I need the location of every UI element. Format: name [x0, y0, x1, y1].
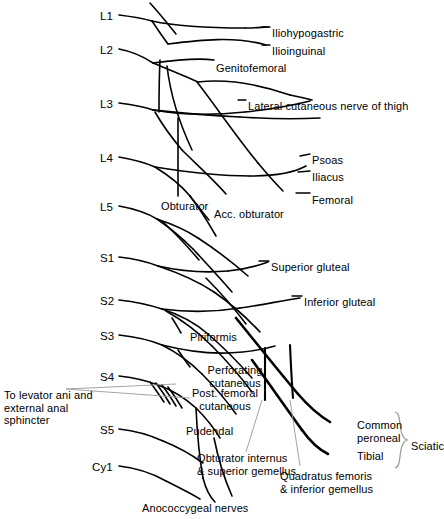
lumbosacral-plexus-diagram: L1 L2 L3 L4 L5 S1 S2 S3 S4 S5 Cy1 Iliohy…: [0, 0, 444, 519]
nerve-label-iliohypogastric: Iliohypogastric: [272, 27, 344, 40]
nerve-label-quadratus-femoris-inferior-gemellus: Quadratus femoris& inferior gemellus: [280, 470, 412, 495]
nerve-label-perforating-cutaneous: Perforatingcutaneous: [195, 364, 275, 389]
nerve-label-ilioinguinal: Ilioinguinal: [272, 45, 325, 58]
nerve-label-pudendal: Pudendal: [186, 425, 233, 438]
nerve-label-obturator: Obturator: [161, 200, 208, 213]
nerve-label-anococcygeal-nerves: Anococcygeal nerves: [142, 502, 248, 515]
root-label-l1: L1: [100, 10, 113, 23]
nerve-label-tibial: Tibial: [357, 450, 383, 463]
root-label-l3: L3: [100, 98, 113, 111]
nerve-label-psoas: Psoas: [312, 154, 343, 167]
nerve-label-to-levator-ani-and-external-anal-sphincter: To levator ani andexternal analsphincter: [4, 389, 114, 427]
nerve-label-acc-obturator: Acc. obturator: [214, 208, 284, 221]
nerve-label-piriformis: Piriformis: [190, 331, 237, 344]
nerve-label-common-peroneal: Commonperoneal: [357, 419, 417, 444]
root-label-s2: S2: [100, 295, 114, 308]
root-label-s1: S1: [100, 252, 114, 265]
nerve-label-sciatic: Sciatic: [411, 440, 444, 453]
nerve-label-superior-gluteal: Superior gluteal: [271, 261, 350, 274]
nerve-label-femoral: Femoral: [312, 194, 353, 207]
root-label-cy1: Cy1: [92, 461, 113, 474]
root-label-l2: L2: [100, 44, 113, 57]
root-label-s3: S3: [100, 330, 114, 343]
nerve-label-lateral-cutaneous-nerve-of-thigh: Lateral cutaneous nerve of thigh: [248, 100, 408, 113]
nerve-label-genitofemoral: Genitofemoral: [216, 62, 286, 75]
nerve-label-post-femoral-cutaneous: Post. femoralcutaneous: [179, 387, 271, 412]
root-label-s4: S4: [100, 371, 114, 384]
nerve-label-inferior-gluteal: Inferior gluteal: [304, 296, 375, 309]
root-label-l4: L4: [100, 152, 113, 165]
nerve-label-iliacus: Iliacus: [312, 171, 344, 184]
root-label-l5: L5: [100, 201, 113, 214]
